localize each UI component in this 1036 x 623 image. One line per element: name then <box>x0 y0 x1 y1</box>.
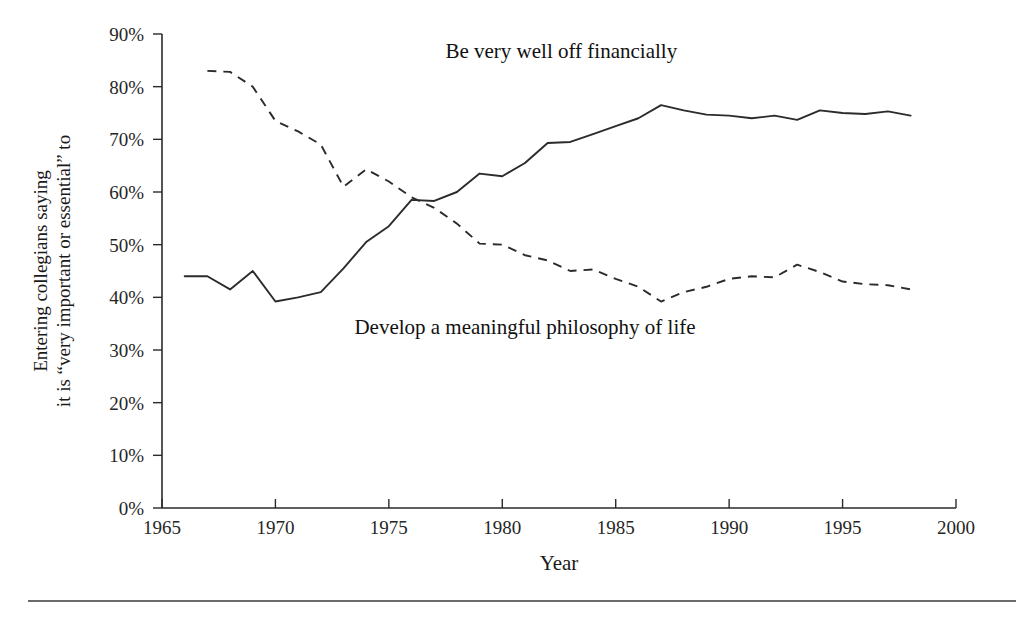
x-tick-label-1970: 1970 <box>256 517 294 538</box>
y-tick-label-80%: 80% <box>109 77 144 98</box>
chart-figure: 0%10%20%30%40%50%60%70%80%90% 1965197019… <box>0 0 1036 623</box>
x-tick-label-2000: 2000 <box>937 517 975 538</box>
y-tick-label-50%: 50% <box>109 235 144 256</box>
y-axis-tick-labels: 0%10%20%30%40%50%60%70%80%90% <box>109 24 144 519</box>
y-tick-label-0%: 0% <box>119 498 145 519</box>
y-tick-label-20%: 20% <box>109 393 144 414</box>
y-tick-label-30%: 30% <box>109 340 144 361</box>
series-line-develop-a-meaningful-philosophy-of-life <box>207 71 910 302</box>
y-axis-title-line-2: it is “very important or essential” to <box>53 135 74 407</box>
x-axis-ticks <box>162 499 956 508</box>
series-line-be-very-well-off-financially <box>185 105 911 301</box>
x-axis-title: Year <box>540 551 579 575</box>
y-tick-label-40%: 40% <box>109 287 144 308</box>
y-tick-label-90%: 90% <box>109 24 144 45</box>
y-tick-label-10%: 10% <box>109 445 144 466</box>
series-annotation-financial: Be very well off financially <box>445 39 677 63</box>
line-chart: 0%10%20%30%40%50%60%70%80%90% 1965197019… <box>0 0 1036 623</box>
y-tick-label-60%: 60% <box>109 182 144 203</box>
x-tick-label-1980: 1980 <box>483 517 521 538</box>
y-axis-ticks <box>153 34 162 508</box>
x-tick-label-1990: 1990 <box>710 517 748 538</box>
y-tick-label-70%: 70% <box>109 129 144 150</box>
x-tick-label-1995: 1995 <box>824 517 862 538</box>
x-tick-label-1975: 1975 <box>370 517 408 538</box>
y-axis-title-line-1: Entering collegians saying <box>30 170 51 372</box>
series-annotation-philosophy: Develop a meaningful philosophy of life <box>354 315 695 339</box>
x-tick-label-1965: 1965 <box>143 517 181 538</box>
x-tick-label-1985: 1985 <box>597 517 635 538</box>
x-axis-tick-labels: 19651970197519801985199019952000 <box>143 517 975 538</box>
